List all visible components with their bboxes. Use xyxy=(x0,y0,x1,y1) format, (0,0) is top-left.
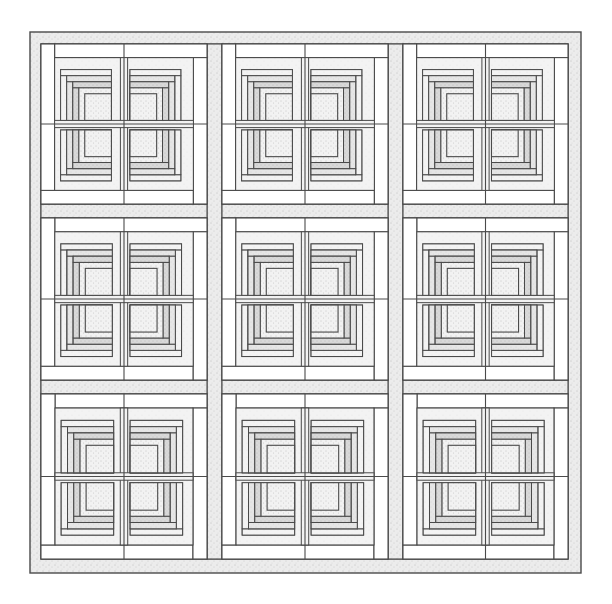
log-cabin-block xyxy=(403,218,568,380)
log-strip xyxy=(61,250,67,295)
log-strip xyxy=(435,82,474,88)
mini-block xyxy=(492,70,543,121)
quilt-diagram: Log cabin quilt layout xyxy=(0,0,612,604)
log-strip xyxy=(311,529,363,535)
log-strip xyxy=(248,305,254,344)
log-strip xyxy=(429,256,435,295)
block-log-top xyxy=(55,218,207,232)
log-strip xyxy=(530,82,536,121)
log-strip xyxy=(423,483,429,529)
log-strip xyxy=(423,305,429,350)
mini-block xyxy=(130,244,181,295)
log-strip xyxy=(67,130,73,169)
log-strip xyxy=(423,350,474,356)
log-strip xyxy=(536,76,542,121)
log-strip xyxy=(311,344,356,350)
mini-block-center xyxy=(266,94,293,121)
log-strip xyxy=(61,76,67,121)
log-strip xyxy=(242,529,294,535)
log-strip xyxy=(350,256,356,295)
log-strip xyxy=(130,163,169,169)
mini-block-center xyxy=(130,94,157,121)
log-strip xyxy=(67,256,73,295)
sashing-horizontal xyxy=(222,204,388,218)
block-log-bottom xyxy=(222,545,374,559)
mini-block xyxy=(61,305,112,356)
log-strip xyxy=(68,427,114,433)
log-strip xyxy=(356,305,362,350)
block-log-top xyxy=(55,394,207,408)
mini-block xyxy=(311,420,363,472)
mini-block xyxy=(61,483,113,535)
mini-block-center xyxy=(266,268,293,295)
log-strip xyxy=(68,523,114,529)
log-strip xyxy=(242,483,248,529)
mini-block xyxy=(242,420,294,472)
log-strip xyxy=(254,163,293,169)
block-log-bottom xyxy=(403,190,554,204)
log-strip xyxy=(242,420,294,426)
log-strip xyxy=(130,350,181,356)
log-strip xyxy=(345,439,351,473)
mini-block xyxy=(423,70,474,121)
log-strip xyxy=(524,305,530,338)
log-strip xyxy=(176,483,182,529)
log-strip xyxy=(344,88,350,121)
log-strip xyxy=(423,250,429,295)
log-strip xyxy=(130,82,169,88)
log-cabin-block xyxy=(222,218,388,380)
log-strip xyxy=(430,427,476,433)
mini-block xyxy=(61,130,112,181)
block-log-left xyxy=(41,394,55,545)
log-strip xyxy=(242,130,248,175)
log-strip xyxy=(311,427,357,433)
log-strip xyxy=(61,130,67,175)
log-strip xyxy=(61,529,113,535)
log-strip xyxy=(492,250,537,256)
log-strip xyxy=(423,130,429,175)
mini-block-center xyxy=(267,445,294,472)
log-strip xyxy=(74,516,114,522)
log-cabin-block xyxy=(403,44,568,204)
mini-block xyxy=(423,244,474,295)
log-strip xyxy=(492,516,532,522)
quilt-blocks xyxy=(41,44,568,559)
log-strip xyxy=(130,244,181,250)
log-strip xyxy=(492,70,543,76)
block-log-right xyxy=(554,408,568,559)
log-strip xyxy=(536,130,542,175)
log-strip xyxy=(68,433,74,473)
log-cabin-block xyxy=(41,44,207,204)
log-strip xyxy=(423,420,475,426)
log-strip xyxy=(311,338,350,344)
log-strip xyxy=(350,82,356,121)
log-strip xyxy=(73,305,79,338)
log-strip xyxy=(311,516,351,522)
mini-block-center xyxy=(130,445,157,472)
block-log-bottom xyxy=(222,366,374,380)
log-strip xyxy=(531,305,537,344)
block-log-top xyxy=(417,218,568,232)
log-strip xyxy=(61,305,67,350)
log-strip xyxy=(311,163,350,169)
log-strip xyxy=(130,76,175,82)
log-strip xyxy=(175,305,181,350)
mini-block xyxy=(311,130,362,181)
mini-block xyxy=(61,70,112,121)
log-cabin-block xyxy=(41,394,207,559)
block-log-top xyxy=(55,44,207,58)
log-strip xyxy=(436,439,442,473)
log-strip xyxy=(492,244,543,250)
log-strip xyxy=(170,483,176,523)
log-strip xyxy=(67,344,112,350)
block-log-left xyxy=(222,218,236,366)
log-strip xyxy=(254,82,293,88)
mini-block-center xyxy=(311,94,338,121)
log-strip xyxy=(255,516,295,522)
mini-block-center xyxy=(85,268,112,295)
sashing-vertical xyxy=(388,44,403,559)
log-strip xyxy=(163,262,169,295)
log-strip xyxy=(429,169,474,175)
mini-block-center xyxy=(311,268,338,295)
block-log-right xyxy=(374,408,388,559)
